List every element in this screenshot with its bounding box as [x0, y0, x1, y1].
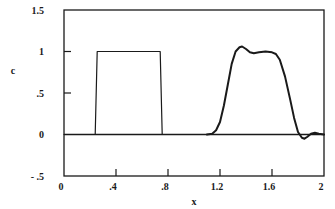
x-axis-title: x: [192, 196, 197, 207]
y-tick-label: 0: [39, 129, 44, 140]
chart: 0.4.81.21.621.51.50- .5 x c: [0, 0, 335, 209]
tick-labels: 0.4.81.21.621.51.50- .5: [31, 5, 324, 193]
x-tick-label: 2: [319, 181, 324, 192]
y-tick-label: 1.5: [32, 5, 45, 16]
x-tick-label: 0: [59, 181, 64, 192]
plot-border: [64, 10, 324, 176]
x-tick-label: 1.6: [263, 181, 276, 192]
y-tick-label: - .5: [31, 171, 44, 182]
x-tick-label: 1.2: [211, 181, 224, 192]
y-axis-title: c: [11, 65, 16, 76]
data-series: [64, 47, 324, 139]
plot-frame: [64, 10, 324, 176]
x-tick-label: .4: [109, 181, 117, 192]
square-pulse-line: [64, 52, 324, 135]
transported-profile-line: [207, 47, 324, 139]
y-tick-label: .5: [37, 88, 45, 99]
y-tick-label: 1: [39, 46, 44, 57]
x-tick-label: .8: [161, 181, 169, 192]
